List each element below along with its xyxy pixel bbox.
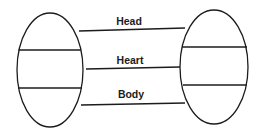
head-heart-body-diagram: Head Heart Body [0, 0, 258, 134]
label-heart: Heart [117, 54, 144, 66]
connector-line-heart [86, 67, 180, 69]
right-ellipse-group [180, 10, 248, 124]
right-ellipse [180, 10, 248, 124]
connection-body: Body [81, 88, 185, 105]
left-ellipse [17, 13, 83, 127]
left-ellipse-group [17, 13, 83, 127]
connection-head: Head [79, 15, 185, 31]
label-body: Body [118, 88, 144, 100]
connection-heart: Heart [86, 54, 180, 69]
label-head: Head [116, 15, 142, 27]
connector-line-body [81, 103, 185, 105]
connector-line-head [79, 28, 185, 31]
